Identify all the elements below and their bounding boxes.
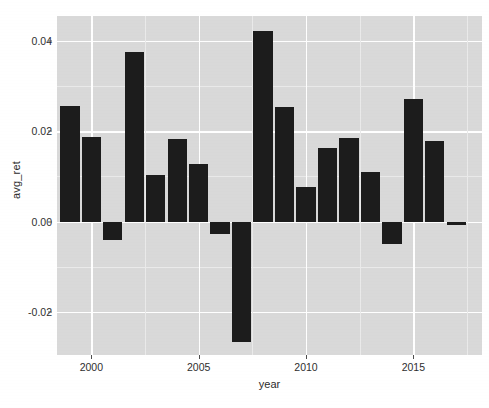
x-axis-title-label: year [259,378,280,390]
bar [296,187,315,221]
x-axis-tick-label: 2015 [402,361,425,373]
bar [361,172,380,221]
bar [210,222,229,234]
x-axis-tick-label: 2000 [80,361,103,373]
x-axis-tick-mark [199,355,200,359]
bar [232,222,251,343]
y-axis-tick-label: 0.04 [8,35,52,47]
bar [382,222,401,245]
x-axis-tick-label: 2005 [187,361,210,373]
bar-chart: avg_ret -0.020.000.020.04 20002005201020… [0,0,489,408]
y-axis-tick-label: 0.02 [8,125,52,137]
gridline-major-vertical [306,16,307,355]
bar [425,141,444,221]
y-axis-tick-label: 0.00 [8,216,52,228]
y-axis-tick-label: -0.02 [8,306,52,318]
bar [103,222,122,240]
bar [146,175,165,222]
bar [339,138,358,221]
x-axis-title: year [57,378,482,390]
y-axis-tick-mark [48,312,52,313]
y-axis-tick-mark [48,131,52,132]
x-axis-tick-mark [306,355,307,359]
x-axis-tick-mark [413,355,414,359]
bar [404,99,423,221]
bar [189,164,208,221]
x-axis-tick-mark [91,355,92,359]
y-axis-ticks: -0.020.000.020.04 [0,0,52,408]
y-axis-tick-mark [48,221,52,222]
gridline-minor-vertical [467,16,468,355]
gridline-major-horizontal [57,312,482,313]
x-axis-ticks: 2000200520102015 [57,355,482,379]
bar [253,31,272,222]
bar [318,148,337,221]
bar [82,137,101,222]
bar [168,139,187,221]
bar [275,107,294,221]
gridline-minor-horizontal [57,267,482,268]
bar [60,106,79,222]
y-axis-tick-mark [48,40,52,41]
x-axis-tick-label: 2010 [294,361,317,373]
plot-panel [57,16,482,355]
bar [125,52,144,222]
bar [447,222,466,226]
